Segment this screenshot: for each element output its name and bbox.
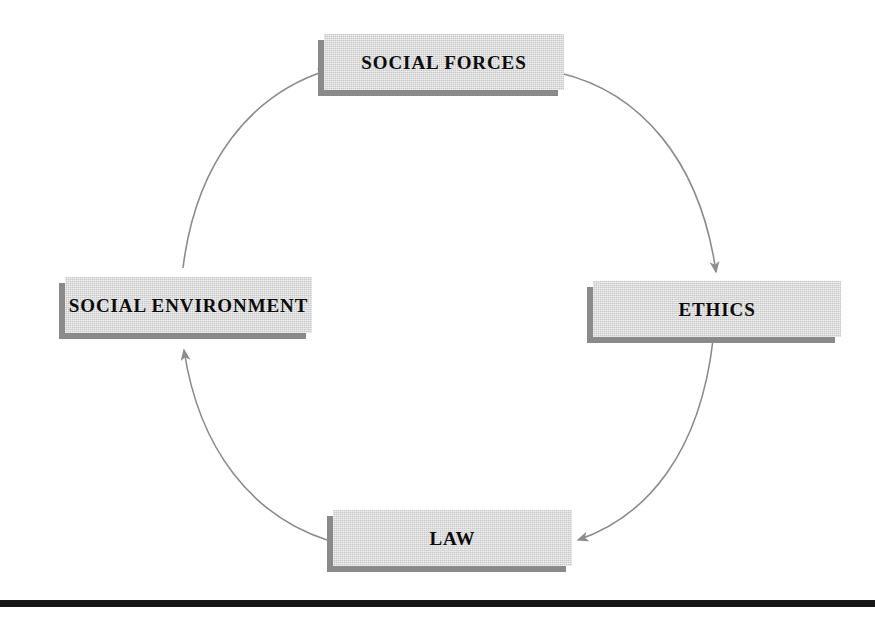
connector-ethics-to-law xyxy=(578,340,713,540)
node-label-ethics: ETHICS xyxy=(678,300,755,319)
node-label-law: LAW xyxy=(430,529,476,548)
bottom-divider-rule xyxy=(0,600,875,607)
figure-root: SOCIAL FORCES ETHICS LAW SOCIAL ENVIRONM… xyxy=(0,0,875,617)
node-label-social-environment: SOCIAL ENVIRONMENT xyxy=(69,296,309,315)
connector-law-to-social-environment xyxy=(184,350,327,540)
connector-social-forces-to-ethics xyxy=(560,73,716,272)
node-social-environment[interactable]: SOCIAL ENVIRONMENT xyxy=(65,277,312,333)
node-law[interactable]: LAW xyxy=(333,510,572,566)
connector-social-environment-to-social-forces xyxy=(183,70,328,268)
node-label-social-forces: SOCIAL FORCES xyxy=(361,53,526,72)
node-ethics[interactable]: ETHICS xyxy=(593,281,841,337)
node-social-forces[interactable]: SOCIAL FORCES xyxy=(324,34,564,90)
